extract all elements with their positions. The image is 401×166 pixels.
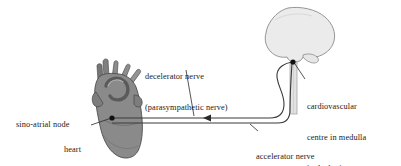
sino-atrial-node-dot — [109, 115, 114, 120]
cardiovascular-centre-label-line1: cardiovascular — [307, 102, 366, 112]
decelerator-nerve-label-line2: (parasympathetic nerve) — [145, 103, 228, 113]
sino-atrial-node-label: sino-atrial node — [16, 120, 69, 130]
heart-illustration — [92, 59, 142, 158]
heart-label: heart — [64, 145, 81, 155]
decelerator-nerve-label: decelerator nerve (parasympathetic nerve… — [145, 52, 228, 134]
cardiovascular-centre-dot — [290, 59, 295, 64]
heart-body-shape — [95, 73, 143, 158]
heart-left-auricle — [134, 95, 142, 107]
brain-outline-shape — [265, 7, 334, 62]
brain-illustration — [265, 7, 334, 63]
decelerator-nerve-label-line1: decelerator nerve — [145, 72, 228, 82]
accelerator-label-leader — [250, 124, 258, 131]
nerve-control-of-heart-diagram: decelerator nerve (parasympathetic nerve… — [0, 0, 401, 166]
accelerator-nerve-label-line1: accelerator nerve — [256, 152, 324, 162]
accelerator-nerve-label: accelerator nerve (sympathetic nerve) — [256, 132, 324, 166]
